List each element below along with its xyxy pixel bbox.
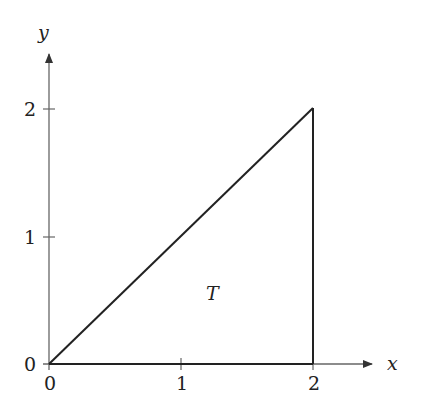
- x-tick-label-2: 2: [308, 372, 320, 394]
- y-tick-label-1: 1: [24, 226, 36, 248]
- x-tick-label-0: 0: [44, 372, 56, 394]
- y-tick-label-2: 2: [24, 98, 36, 120]
- region-label-T: T: [206, 282, 220, 304]
- triangle-region-diagram: y x 0 1 2 0 1 2 T: [0, 0, 422, 409]
- hypotenuse-edge: [49, 108, 313, 364]
- y-axis-label: y: [37, 21, 49, 43]
- y-tick-label-0: 0: [24, 353, 36, 375]
- x-axis-label: x: [387, 352, 398, 374]
- x-tick-label-1: 1: [176, 372, 188, 394]
